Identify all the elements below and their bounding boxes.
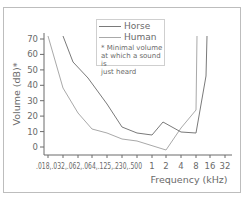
y-tick-40: 40	[27, 80, 38, 90]
legend-note-line-1: * Minimal volume	[101, 44, 167, 52]
legend-swatch-human	[99, 37, 121, 38]
y-axis-title: Volume (dB)*	[11, 62, 22, 125]
legend-item-horse: Horse	[99, 21, 150, 31]
y-tick-60: 60	[27, 49, 38, 59]
y-tick-10: 10	[27, 127, 38, 137]
legend-note-line-2: at which a sound is	[101, 52, 167, 68]
x-axis-title: Frequency (kHz)	[150, 174, 227, 185]
x-tick-1: 1	[149, 161, 154, 171]
legend-note-line-3: just heard	[101, 68, 167, 76]
y-tick-0: 0	[33, 142, 38, 152]
y-tick-30: 30	[27, 96, 38, 106]
y-tick-70: 70	[27, 34, 38, 44]
legend: Horse Human * Minimal volume at which a …	[96, 19, 165, 66]
y-ticks	[40, 39, 44, 147]
y-tick-50: 50	[27, 65, 38, 75]
x-tick-16: 16	[205, 161, 216, 171]
legend-footnote: * Minimal volume at which a sound is jus…	[101, 44, 167, 76]
x-tick-4: 4	[178, 161, 183, 171]
legend-swatch-horse	[99, 26, 121, 27]
x-tick-labels-low: .018,.032,.062,.064,.125,.230,.500	[36, 161, 142, 171]
x-tick-2: 2	[163, 161, 168, 171]
legend-item-human: Human	[99, 32, 156, 42]
legend-label-horse: Horse	[124, 21, 150, 31]
x-tick-32: 32	[220, 161, 231, 171]
legend-label-human: Human	[124, 32, 156, 42]
y-tick-20: 20	[27, 111, 38, 121]
x-tick-8: 8	[193, 161, 198, 171]
